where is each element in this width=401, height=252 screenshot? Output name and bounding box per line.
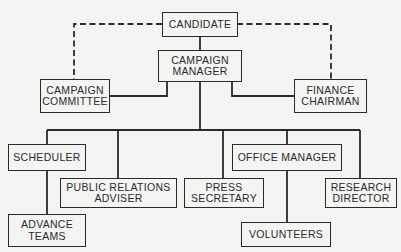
node-label: SCHEDULER <box>13 152 80 164</box>
node-label: ADVISER <box>94 193 142 205</box>
node-label: DIRECTOR <box>332 193 389 205</box>
dashed-line-candidate-finance <box>237 24 331 79</box>
node-label: OFFICE MANAGER <box>238 152 337 164</box>
node-scheduler: SCHEDULER <box>8 144 86 171</box>
dashed-line-candidate-committee <box>74 24 162 79</box>
node-office-manager: OFFICE MANAGER <box>232 144 342 171</box>
node-campaign-committee: CAMPAIGN COMMITTEE <box>40 79 110 113</box>
node-advance-teams: ADVANCE TEAMS <box>8 214 86 247</box>
node-label: ADVANCE <box>21 219 73 231</box>
line-manager-finance <box>232 81 294 96</box>
node-label: SECRETARY <box>191 193 257 205</box>
node-label: MANAGER <box>172 66 227 78</box>
node-press-secretary: PRESS SECRETARY <box>184 178 264 208</box>
node-campaign-manager: CAMPAIGN MANAGER <box>158 50 242 82</box>
node-label: TEAMS <box>28 231 66 243</box>
line-manager-committee <box>110 81 167 96</box>
node-label: VOLUNTEERS <box>249 229 323 241</box>
node-label: CANDIDATE <box>169 19 232 31</box>
node-label: COMMITTEE <box>42 96 108 108</box>
node-public-relations-adviser: PUBLIC RELATIONS ADVISER <box>60 178 177 208</box>
node-volunteers: VOLUNTEERS <box>241 222 331 247</box>
node-finance-chairman: FINANCE CHAIRMAN <box>294 79 367 113</box>
node-candidate: CANDIDATE <box>162 12 238 37</box>
node-research-director: RESEARCH DIRECTOR <box>325 178 397 208</box>
node-label: CHAIRMAN <box>301 96 359 108</box>
